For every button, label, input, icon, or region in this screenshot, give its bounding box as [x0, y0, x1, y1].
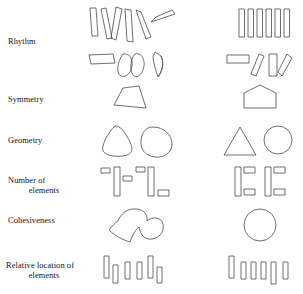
- row-number-of-elements-right-shapes: [223, 164, 301, 204]
- row-relative-location-left-shapes: [85, 248, 195, 294]
- row-label-rhythm: Rhythm: [8, 37, 80, 48]
- row-number-of-elements-left-shapes: [85, 164, 195, 204]
- figure-root: Rhythm: [0, 0, 303, 294]
- figure-row-cohesiveness: Cohesiveness: [0, 204, 303, 248]
- figure-row-number-of-elements: Number of elements: [0, 164, 303, 204]
- figure-row-symmetry: Symmetry: [0, 80, 303, 118]
- row-rhythm-right-shapes: [223, 0, 301, 80]
- row-label-relative-location-line1: Relative location of: [6, 261, 82, 272]
- row-label-symmetry: Symmetry: [8, 95, 80, 106]
- row-cohesiveness-left-shapes: [85, 204, 195, 248]
- row-label-number-of-elements-line2: elements: [8, 186, 80, 197]
- row-rhythm-left-shapes: [85, 0, 195, 80]
- row-label-geometry: Geometry: [8, 136, 80, 147]
- figure-row-geometry: Geometry: [0, 118, 303, 164]
- row-label-relative-location-line2: elements: [6, 271, 82, 282]
- figure-row-relative-location: Relative location of elements: [0, 248, 303, 294]
- row-symmetry-right-shapes: [223, 80, 301, 118]
- figure-row-rhythm: Rhythm: [0, 0, 303, 80]
- row-geometry-left-shapes: [85, 118, 195, 164]
- row-label-number-of-elements-line1: Number of: [8, 176, 80, 187]
- row-symmetry-left-shapes: [85, 80, 195, 118]
- row-label-cohesiveness: Cohesiveness: [8, 216, 80, 227]
- row-relative-location-right-shapes: [223, 248, 301, 294]
- row-cohesiveness-right-shapes: [223, 204, 301, 248]
- row-geometry-right-shapes: [223, 118, 301, 164]
